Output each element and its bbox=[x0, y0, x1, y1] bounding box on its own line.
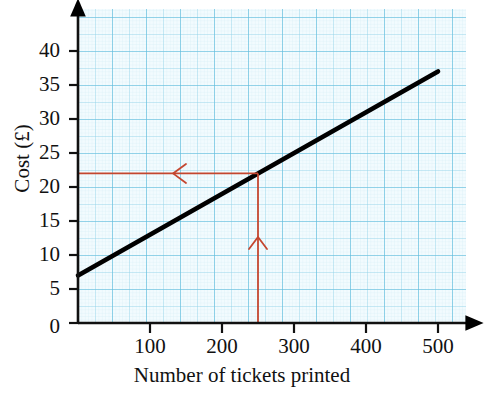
xtick-label-300: 300 bbox=[262, 336, 326, 357]
xtick-label-500: 500 bbox=[406, 336, 470, 357]
xtick-label-400: 400 bbox=[334, 336, 398, 357]
x-axis-ticks bbox=[150, 323, 438, 333]
xtick-label-100: 100 bbox=[118, 336, 182, 357]
ytick-label-10: 10 bbox=[8, 244, 60, 265]
ytick-label-0: 0 bbox=[8, 316, 60, 337]
xtick-label-200: 200 bbox=[190, 336, 254, 357]
ytick-label-5: 5 bbox=[8, 278, 60, 299]
y-axis-title: Cost (£) bbox=[10, 89, 35, 229]
ytick-label-40: 40 bbox=[8, 40, 60, 61]
cost-vs-tickets-chart: 40 35 30 25 20 15 10 5 0 100 200 300 400… bbox=[0, 0, 484, 401]
x-axis-title: Number of tickets printed bbox=[0, 363, 484, 388]
